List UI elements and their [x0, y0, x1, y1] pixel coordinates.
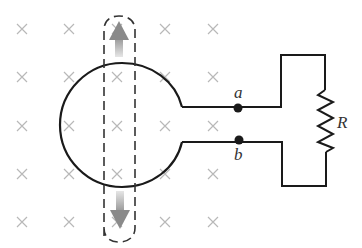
terminal-a-label: a — [234, 84, 243, 101]
field-x-mark-icon — [208, 72, 218, 82]
field-x-mark-icon — [208, 121, 218, 131]
field-x-mark-icon — [160, 217, 170, 227]
arrow-down-icon — [110, 191, 130, 229]
field-x-mark-icon — [64, 24, 74, 34]
circuit-svg — [0, 0, 362, 248]
terminal-b-dot — [235, 136, 244, 145]
arrow-up-icon — [109, 21, 129, 57]
terminal-a-dot — [234, 104, 243, 113]
field-x-mark-icon — [17, 121, 27, 131]
field-x-mark-icon — [160, 121, 170, 131]
field-x-mark-icon — [17, 24, 27, 34]
field-x-mark-icon — [112, 72, 122, 82]
field-x-mark-icon — [112, 169, 122, 179]
field-x-mark-icon — [64, 72, 74, 82]
field-x-mark-icon — [64, 169, 74, 179]
bottom-lead-wire — [182, 142, 326, 186]
physics-diagram: a b R — [0, 0, 362, 248]
resistor-icon — [318, 90, 333, 152]
terminal-b-label: b — [234, 146, 243, 163]
field-x-mark-icon — [208, 169, 218, 179]
field-x-mark-icon — [112, 121, 122, 131]
field-x-mark-icon — [17, 169, 27, 179]
field-x-mark-icon — [17, 72, 27, 82]
top-lead-wire — [182, 55, 325, 107]
resistor-label: R — [337, 114, 347, 131]
field-x-mark-icon — [160, 24, 170, 34]
field-x-mark-icon — [64, 217, 74, 227]
field-x-mark-icon — [208, 217, 218, 227]
field-x-mark-icon — [208, 24, 218, 34]
field-x-mark-icon — [64, 121, 74, 131]
field-x-mark-icon — [17, 217, 27, 227]
